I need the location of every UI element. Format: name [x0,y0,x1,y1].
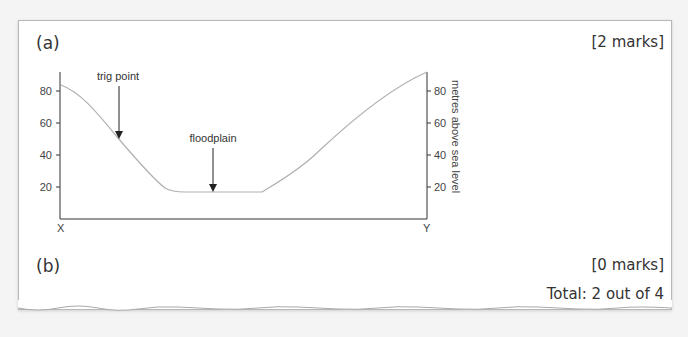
y-endpoint-label: Y [423,222,431,234]
trig-point-label: trig point [97,70,139,82]
svg-text:80: 80 [40,85,52,97]
floodplain-arrow-icon [209,184,217,192]
total-score: Total: 2 out of 4 [547,285,664,303]
svg-text:60: 60 [40,117,52,129]
left-ticks: 80 60 40 20 [40,85,60,193]
right-ticks: 80 60 40 20 [427,85,446,193]
y-axis-label: metres above sea level [450,80,462,193]
svg-text:80: 80 [434,85,446,97]
x-endpoint-label: X [57,222,65,234]
svg-text:40: 40 [434,149,446,161]
svg-text:60: 60 [434,117,446,129]
svg-text:20: 20 [40,181,52,193]
part-b-label: (b) [36,256,60,276]
svg-text:20: 20 [434,181,446,193]
part-b-marks: [0 marks] [592,256,665,274]
floodplain-label: floodplain [189,132,236,144]
svg-text:40: 40 [40,149,52,161]
